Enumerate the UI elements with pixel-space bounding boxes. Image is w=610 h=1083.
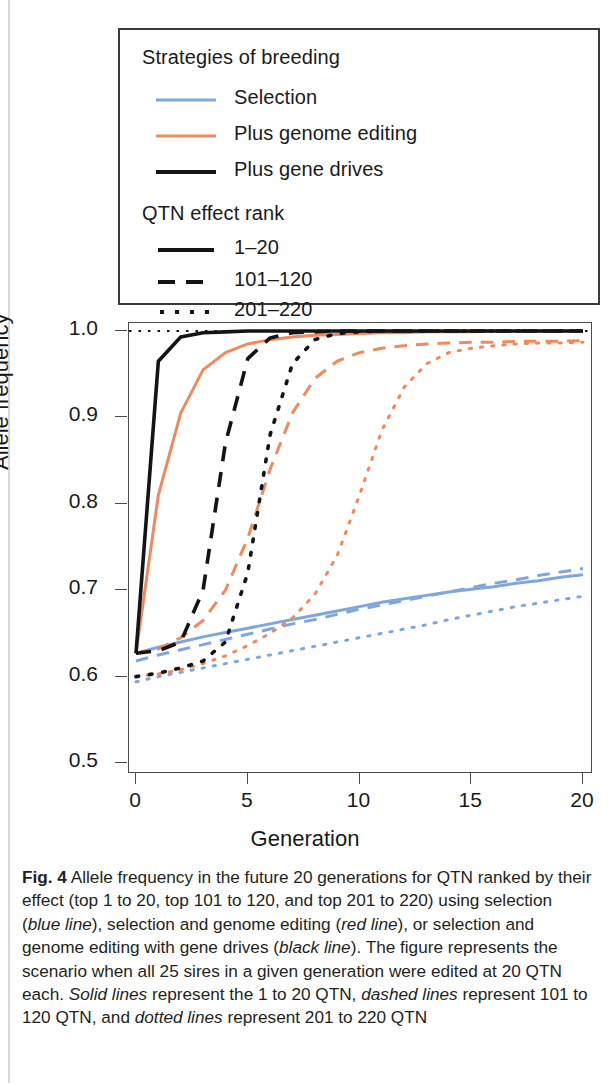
caption-segment: represent the 1 to 20 QTN, (147, 984, 361, 1004)
line-chart-svg (129, 323, 590, 771)
caption-segment: blue line (28, 914, 92, 934)
legend-group-title-qtn-rank: QTN effect rank (142, 202, 284, 225)
y-axis-tick-label: 0.7 (36, 575, 98, 599)
y-axis-tick-mark (115, 416, 127, 417)
legend-line-dashed (150, 268, 222, 296)
plot-area (128, 322, 592, 773)
y-axis-tick-label: 0.9 (36, 402, 98, 426)
chart-series-line (136, 331, 583, 677)
caption-segment: Solid lines (69, 984, 147, 1004)
y-axis-tick-mark (115, 762, 127, 763)
legend-key-selection (150, 86, 222, 114)
legend-line-black-solid (150, 158, 222, 186)
legend-label-rank-101-120: 101–120 (234, 268, 313, 291)
y-axis-tick-label: 0.5 (36, 748, 98, 772)
legend-label-genome-editing: Plus genome editing (234, 122, 417, 145)
y-axis-tick-mark (115, 330, 127, 331)
chart-series-line (136, 331, 583, 653)
chart-legend: Strategies of breeding Selection Plus ge… (118, 28, 600, 305)
caption-segment: dotted lines (135, 1007, 223, 1027)
legend-line-solid (150, 236, 222, 264)
legend-label-rank-1-20: 1–20 (234, 236, 279, 259)
x-axis-tick-label: 0 (115, 788, 155, 812)
x-axis-tick-label: 20 (562, 788, 602, 812)
chart-series-line (136, 331, 583, 653)
legend-key-rank-1-20 (150, 236, 222, 264)
legend-line-orange-solid (150, 122, 222, 150)
legend-line-blue-solid (150, 86, 222, 114)
legend-group-title-strategies: Strategies of breeding (142, 46, 340, 69)
caption-segment: black line (279, 937, 351, 957)
y-axis-tick-mark (115, 676, 127, 677)
legend-key-rank-101-120 (150, 268, 222, 296)
caption-segment: dashed lines (361, 984, 458, 1004)
chart-series-line (136, 331, 583, 653)
chart-series-line (136, 342, 583, 676)
y-axis-tick-label: 0.6 (36, 662, 98, 686)
legend-key-genome-editing (150, 122, 222, 150)
legend-label-selection: Selection (234, 86, 317, 109)
x-axis-tick-mark (470, 772, 471, 784)
y-axis-title: Allele frequency (0, 313, 14, 470)
legend-label-rank-201-220: 201–220 (234, 298, 313, 321)
caption-segment: ), selection and genome editing ( (92, 914, 341, 934)
y-axis-tick-label: 0.8 (36, 489, 98, 513)
caption-segment: Fig. 4 (22, 867, 67, 887)
x-axis-tick-label: 15 (450, 788, 490, 812)
caption-segment: red line (341, 914, 397, 934)
y-axis-tick-mark (115, 589, 127, 590)
legend-key-gene-drives (150, 158, 222, 186)
y-axis-tick-mark (115, 503, 127, 504)
x-axis-tick-mark (359, 772, 360, 784)
chart-series-line (136, 596, 583, 682)
legend-label-gene-drives: Plus gene drives (234, 158, 383, 181)
figure-caption: Fig. 4 Allele frequency in the future 20… (22, 866, 594, 1030)
x-axis-tick-mark (247, 772, 248, 784)
x-axis-tick-mark (582, 772, 583, 784)
x-axis-title: Generation (0, 826, 610, 852)
x-axis-tick-label: 5 (227, 788, 267, 812)
figure-4: Strategies of breeding Selection Plus ge… (0, 0, 610, 1083)
caption-segment: represent 201 to 220 QTN (223, 1007, 427, 1027)
y-axis-tick-label: 1.0 (36, 316, 98, 340)
x-axis-tick-label: 10 (339, 788, 379, 812)
x-axis-tick-mark (135, 772, 136, 784)
